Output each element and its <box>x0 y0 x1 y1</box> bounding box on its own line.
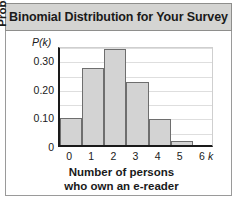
x-axis-tick-label: 6 <box>193 150 211 162</box>
bar <box>171 141 193 145</box>
y-axis-tick-label: 0.20 <box>8 84 54 96</box>
x-axis-tick-label: 0 <box>60 150 78 162</box>
y-axis-title: Probability <box>0 0 8 52</box>
x-axis-tick-label: 3 <box>127 150 145 162</box>
x-axis-tick-labels: k 0123456 <box>58 150 213 166</box>
x-axis-tick-label: 2 <box>104 150 122 162</box>
x-axis-tick-label: 4 <box>149 150 167 162</box>
x-axis-title-line1: Number of persons <box>14 165 229 179</box>
y-axis-tick-label: 0 <box>8 141 54 153</box>
y-axis-tick-label: 0.30 <box>8 55 54 67</box>
bar <box>104 49 126 145</box>
x-axis-tick-label: 1 <box>82 150 100 162</box>
bar <box>149 119 171 145</box>
y-axis-tick-label: 0.10 <box>8 112 54 124</box>
figure-container: Binomial Distribution for Your Survey P(… <box>0 0 237 199</box>
x-axis-title: Number of persons who own an e-reader <box>14 165 229 193</box>
page-title: Binomial Distribution for Your Survey <box>6 10 231 24</box>
bar-series <box>60 48 212 145</box>
plot-area <box>58 47 213 147</box>
x-axis-tick-label: 5 <box>171 150 189 162</box>
y-axis-tick-labels: 00.100.200.30 <box>8 47 54 147</box>
bar <box>60 118 82 145</box>
bar <box>82 68 104 145</box>
chart-title-band: Binomial Distribution for Your Survey <box>5 3 232 31</box>
bar <box>126 82 148 145</box>
x-axis-title-line2: who own an e-reader <box>14 179 229 193</box>
